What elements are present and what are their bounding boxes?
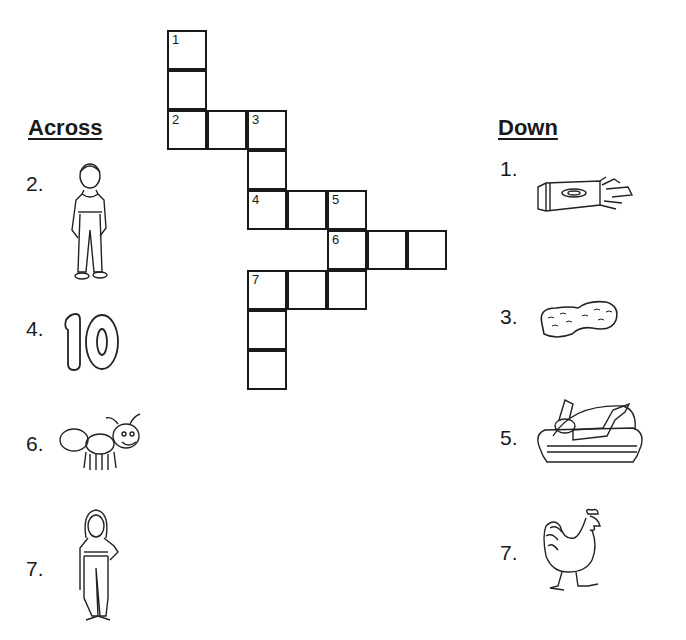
grid-cell[interactable] — [207, 110, 247, 150]
down-heading: Down — [498, 115, 558, 141]
grid-cell[interactable] — [287, 190, 327, 230]
crayon-box-icon — [536, 175, 636, 220]
grid-cell[interactable]: 4 — [247, 190, 287, 230]
grid-cell[interactable]: 2 — [167, 110, 207, 150]
grid-cell[interactable]: 1 — [167, 30, 207, 70]
grid-cell[interactable] — [367, 230, 407, 270]
man-on-sofa-icon — [533, 390, 648, 465]
woman-icon — [70, 508, 130, 628]
grid-cell[interactable]: 6 — [327, 230, 367, 270]
grid-cell[interactable] — [247, 150, 287, 190]
grid-cell[interactable] — [247, 310, 287, 350]
cell-number: 2 — [172, 113, 179, 126]
grid-cell[interactable] — [247, 350, 287, 390]
grid-cell[interactable] — [167, 70, 207, 110]
grid-cell[interactable] — [287, 270, 327, 310]
cell-number: 6 — [332, 233, 339, 246]
grid-cell[interactable]: 5 — [327, 190, 367, 230]
down-clue-1-number: 1. — [500, 157, 518, 181]
grid-cell[interactable] — [407, 230, 447, 270]
cell-number: 7 — [252, 273, 259, 286]
down-clue-3-number: 3. — [500, 305, 518, 329]
down-clue-7-number: 7. — [500, 541, 518, 565]
across-clue-6-number: 6. — [26, 432, 44, 456]
across-clue-4-number: 4. — [26, 317, 44, 341]
across-clue-2-number: 2. — [26, 172, 44, 196]
grid-cell[interactable] — [327, 270, 367, 310]
number-ten-icon — [62, 312, 124, 372]
ant-icon — [58, 412, 143, 472]
cell-number: 3 — [252, 113, 259, 126]
cell-number: 4 — [252, 193, 259, 206]
man-icon — [60, 160, 120, 285]
rooster-icon — [540, 506, 610, 596]
grid-cell[interactable]: 7 — [247, 270, 287, 310]
grid-cell[interactable]: 3 — [247, 110, 287, 150]
down-clue-5-number: 5. — [500, 426, 518, 450]
cell-number: 1 — [172, 33, 179, 46]
across-heading: Across — [28, 115, 103, 141]
peanut-icon — [536, 298, 621, 343]
across-clue-7-number: 7. — [26, 557, 44, 581]
cell-number: 5 — [332, 193, 339, 206]
